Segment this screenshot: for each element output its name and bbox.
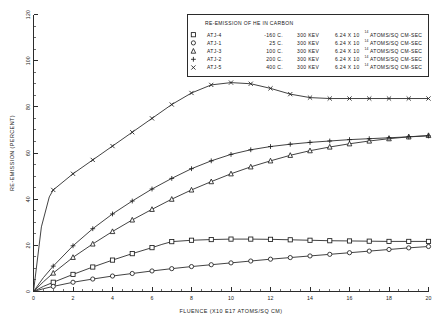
legend-flux-mantissa: 6.24 X 10 bbox=[335, 48, 360, 54]
marker-circle bbox=[328, 252, 332, 256]
legend-energy: 300 KEV bbox=[297, 40, 320, 46]
x-tick-label: 10 bbox=[228, 295, 234, 301]
marker-square bbox=[367, 239, 371, 243]
marker-circle bbox=[229, 261, 233, 265]
y-tick-label: 20 bbox=[25, 242, 31, 248]
legend-temperature: 100 C. bbox=[266, 48, 283, 54]
legend-flux-exponent: 14 bbox=[365, 47, 369, 51]
legend-flux-mantissa: 6.24 X 10 bbox=[335, 32, 360, 38]
legend-flux-exponent: 14 bbox=[365, 30, 369, 34]
legend-sample-name: ATJ-5 bbox=[207, 64, 222, 70]
marker-circle bbox=[150, 269, 154, 273]
marker-square bbox=[308, 238, 312, 242]
legend-flux-units: ATOMS/SQ CM-SEC bbox=[370, 56, 422, 62]
re-emission-line-chart: 02468101214161820020406080100120 FLUENCE… bbox=[0, 0, 445, 324]
marker-circle bbox=[268, 257, 272, 261]
legend-temperature: 25 C. bbox=[269, 40, 283, 46]
marker-circle bbox=[407, 246, 411, 250]
marker-circle bbox=[189, 264, 193, 268]
marker-circle bbox=[91, 277, 95, 281]
legend-flux-units: ATOMS/SQ CM-SEC bbox=[370, 40, 422, 46]
marker-circle bbox=[308, 254, 312, 258]
marker-triangle bbox=[169, 197, 174, 202]
marker-triangle bbox=[90, 241, 95, 246]
y-tick-label: 40 bbox=[25, 196, 31, 202]
marker-circle bbox=[426, 244, 430, 248]
marker-plus bbox=[169, 176, 174, 181]
marker-square bbox=[229, 237, 233, 241]
legend-energy: 300 KEV bbox=[297, 56, 320, 62]
marker-square bbox=[387, 239, 391, 243]
y-tick-label: 120 bbox=[25, 10, 31, 19]
marker-cross bbox=[150, 116, 154, 120]
marker-square bbox=[189, 238, 193, 242]
marker-circle bbox=[51, 284, 55, 288]
x-tick-label: 8 bbox=[190, 295, 193, 301]
marker-triangle bbox=[268, 158, 273, 163]
chart-figure: 02468101214161820020406080100120 FLUENCE… bbox=[0, 0, 445, 324]
legend-title: RE-EMISSION OF HE IN CARBON bbox=[205, 20, 293, 26]
marker-square bbox=[170, 240, 174, 244]
marker-triangle bbox=[71, 255, 76, 260]
marker-square bbox=[328, 239, 332, 243]
series-atj-5 bbox=[34, 80, 431, 291]
legend-energy: 300 KEV bbox=[297, 64, 320, 70]
marker-plus bbox=[209, 158, 214, 163]
marker-square bbox=[347, 239, 351, 243]
marker-plus bbox=[308, 140, 313, 145]
legend-flux-units: ATOMS/SQ CM-SEC bbox=[370, 64, 422, 70]
data-series-layer bbox=[34, 80, 431, 291]
marker-triangle bbox=[288, 153, 293, 158]
marker-plus bbox=[347, 137, 352, 142]
marker-cross bbox=[130, 130, 134, 134]
y-axis-title: RE-EMISSION (PERCENT) bbox=[9, 115, 15, 191]
x-tick-label: 20 bbox=[425, 295, 431, 301]
marker-triangle bbox=[110, 229, 115, 234]
legend-energy: 300 KEV bbox=[297, 48, 320, 54]
marker-square bbox=[91, 265, 95, 269]
marker-plus bbox=[288, 142, 293, 147]
marker-triangle bbox=[308, 148, 313, 153]
marker-square bbox=[51, 280, 55, 284]
marker-circle bbox=[249, 259, 253, 263]
marker-square bbox=[249, 237, 253, 241]
legend-temperature: 200 C. bbox=[266, 56, 283, 62]
marker-square bbox=[209, 237, 213, 241]
legend-sample-name: ATJ-3 bbox=[207, 48, 222, 54]
marker-square bbox=[288, 238, 292, 242]
marker-plus bbox=[268, 144, 273, 149]
y-tick-label: 80 bbox=[25, 104, 31, 110]
legend-flux-exponent: 14 bbox=[365, 39, 369, 43]
marker-circle bbox=[367, 249, 371, 253]
legend-temperature: -160 C. bbox=[264, 32, 283, 38]
x-tick-label: 0 bbox=[32, 295, 35, 301]
marker-plus bbox=[327, 139, 332, 144]
marker-cross bbox=[170, 102, 174, 106]
marker-cross bbox=[91, 158, 95, 162]
marker-cross bbox=[71, 172, 75, 176]
marker-square bbox=[268, 237, 272, 241]
marker-square bbox=[71, 272, 75, 276]
marker-triangle bbox=[150, 207, 155, 212]
x-tick-label: 2 bbox=[71, 295, 74, 301]
x-tick-label: 4 bbox=[111, 295, 114, 301]
x-tick-label: 6 bbox=[150, 295, 153, 301]
y-tick-label: 100 bbox=[25, 56, 31, 65]
legend-energy: 300 KEV bbox=[297, 32, 320, 38]
legend-temperature: 400 C. bbox=[266, 64, 283, 70]
marker-circle bbox=[288, 255, 292, 259]
marker-square bbox=[407, 239, 411, 243]
x-tick-label: 18 bbox=[386, 295, 392, 301]
marker-cross bbox=[51, 188, 55, 192]
x-tick-label: 12 bbox=[267, 295, 273, 301]
legend-flux-exponent: 14 bbox=[365, 63, 369, 67]
legend-marker-circle bbox=[191, 41, 195, 45]
x-tick-label: 14 bbox=[307, 295, 313, 301]
marker-triangle bbox=[229, 171, 234, 176]
x-axis-title: FLUENCE (X10 E17 ATOMS/SQ CM) bbox=[179, 308, 282, 314]
legend-flux-mantissa: 6.24 X 10 bbox=[335, 56, 360, 62]
chart-legend: RE-EMISSION OF HE IN CARBONATJ-4-160 C.3… bbox=[187, 15, 428, 77]
marker-cross bbox=[189, 91, 193, 95]
marker-circle bbox=[170, 267, 174, 271]
marker-triangle bbox=[51, 270, 56, 275]
